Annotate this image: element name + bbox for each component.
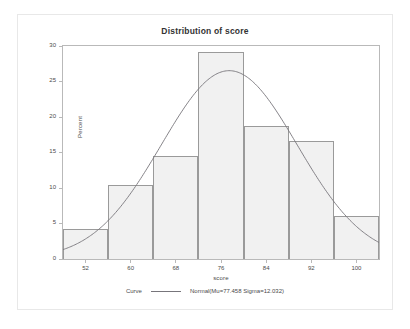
x-axis-title: score — [63, 275, 379, 281]
x-tick-mark — [311, 259, 312, 263]
y-tick-label: 15 — [49, 148, 56, 154]
normal-curve-path — [63, 71, 379, 250]
y-tick-label: 20 — [49, 113, 56, 119]
x-tick-label: 52 — [66, 265, 106, 271]
y-tick-label: 5 — [53, 219, 56, 225]
x-tick-label: 68 — [156, 265, 196, 271]
y-tick-label: 0 — [53, 255, 56, 261]
x-tick-mark — [130, 259, 131, 263]
plot-area: Percent 051015202530 526068768492100 sco… — [62, 45, 380, 260]
x-tick-label: 84 — [246, 265, 286, 271]
normal-curve-svg — [63, 46, 379, 259]
normal-curve-layer — [63, 46, 379, 259]
x-tick-mark — [266, 259, 267, 263]
x-tick-label: 100 — [336, 265, 376, 271]
x-tick-mark — [85, 259, 86, 263]
x-tick-label: 76 — [201, 265, 241, 271]
legend-normal-entry: Normal(Mu=77.458 Sigma=12.032) — [190, 288, 284, 294]
x-tick-mark — [175, 259, 176, 263]
histogram-figure: Distribution of score Percent 0510152025… — [0, 0, 410, 329]
x-tick-mark — [356, 259, 357, 263]
legend-curve-title: Curve — [126, 288, 142, 294]
x-tick-label: 60 — [111, 265, 151, 271]
legend-line-swatch — [151, 291, 181, 292]
y-tick-label: 25 — [49, 77, 56, 83]
chart-legend: Curve Normal(Mu=77.458 Sigma=12.032) — [0, 288, 410, 294]
x-tick-mark — [221, 259, 222, 263]
x-tick-label: 92 — [291, 265, 331, 271]
y-tick-label: 10 — [49, 184, 56, 190]
y-tick-label: 30 — [49, 42, 56, 48]
page-title: Distribution of score — [0, 26, 410, 36]
